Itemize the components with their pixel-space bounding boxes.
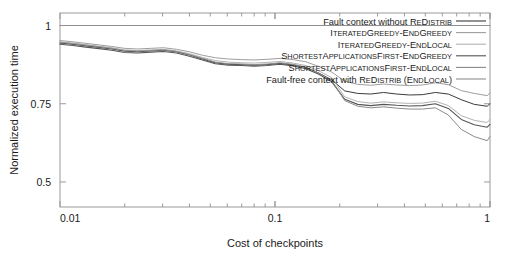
legend-label-part: REEDY (381, 41, 407, 50)
legend-label-part: G (419, 51, 426, 61)
legend-label-part: ISTRIB (428, 18, 452, 27)
legend-label-part: ND (409, 29, 420, 38)
legend-label-part: OCAL (432, 64, 452, 73)
y-tick-label: 0.75 (31, 98, 52, 110)
legend-label-part: REEDY (427, 52, 453, 61)
chart-figure: 0.50.7510.010.11Cost of checkpointsNorma… (0, 0, 507, 267)
legend-label-part: ND (416, 41, 427, 50)
legend-label-part: ISTRIB (377, 76, 401, 85)
legend-label-part: IRST (390, 64, 407, 73)
legend-label-part: HORTEST (295, 64, 331, 73)
y-tick-label: 0.5 (36, 176, 51, 188)
x-tick-label: 1 (484, 212, 490, 224)
legend-label-part: ND (409, 52, 420, 61)
legend-label-part: REEDY (374, 29, 400, 38)
legend-label-part: TERATED (333, 29, 367, 38)
legend-label-part: G (419, 28, 426, 38)
legend-label-part: PPLICATIONS (336, 64, 384, 73)
legend-label-part: ND (413, 76, 424, 85)
legend-label: SHORTESTAPPLICATIONSFIRST-ENDGREEDY (281, 51, 452, 61)
legend-label-part: G (374, 40, 381, 50)
x-tick-label: 0.01 (60, 212, 81, 224)
legend-label-part: OCAL (432, 41, 452, 50)
legend-label-part: ) (449, 75, 452, 85)
legend-label-part: REEDY (427, 29, 453, 38)
legend-label-part: IRST (383, 52, 400, 61)
legend-label: ITERATEDGREEDY-ENDLOCAL (338, 40, 452, 50)
legend-label-part: ND (416, 64, 427, 73)
chart-svg: 0.50.7510.010.11Cost of checkpointsNorma… (0, 0, 507, 267)
legend-label: ITERATEDGREEDY-ENDGREEDY (330, 28, 452, 38)
legend-label: Fault context without REDISTRIB (323, 17, 452, 27)
legend-label-part: G (367, 28, 374, 38)
legend-label-part: HORTEST (287, 52, 323, 61)
legend-label-part: Fault-free context with (266, 75, 359, 85)
x-axis-title: Cost of checkpoints (227, 237, 323, 249)
legend-label: Fault-free context with REDISTRIB (ENDLO… (266, 75, 452, 85)
y-tick-label: 1 (45, 20, 51, 32)
y-axis-title: Normalized execution time (8, 45, 20, 175)
legend-label-part: OCAL (429, 76, 449, 85)
legend-label-part: Fault context without (323, 17, 410, 27)
legend-label: SHORTESTAPPLICATIONSFIRST-ENDLOCAL (289, 63, 452, 73)
legend-label-part: PPLICATIONS (329, 52, 377, 61)
legend-label-part: TERATED (340, 41, 374, 50)
legend: Fault context without REDISTRIBITERATEDG… (266, 17, 486, 85)
x-tick-label: 0.1 (268, 212, 283, 224)
